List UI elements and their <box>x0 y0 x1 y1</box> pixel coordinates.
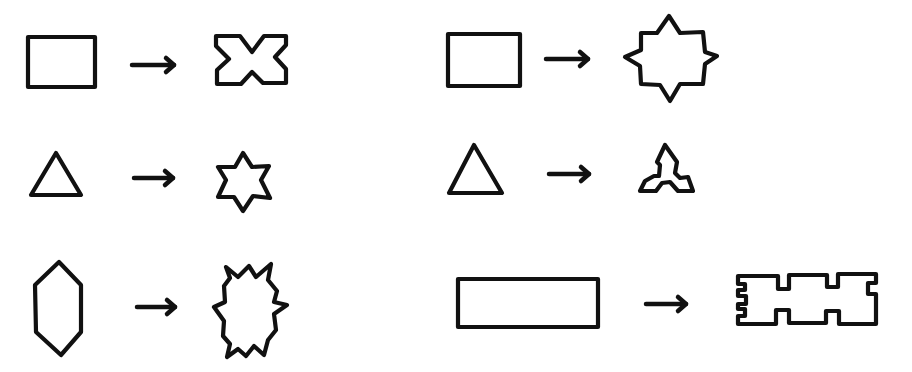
transformation-pair-triangle-to-trefoil <box>449 145 693 193</box>
target-shape-cross-notched-rectangle <box>216 36 286 84</box>
arrow-right-icon <box>646 297 686 311</box>
source-shape-elongated-hexagon <box>35 262 81 355</box>
target-shape-eight-point-star <box>625 16 717 101</box>
arrow-right-icon <box>546 52 588 66</box>
target-shape-castellated-rectangle <box>738 274 876 324</box>
transformation-pair-triangle-to-six-point-star <box>31 153 270 211</box>
shape-transformations-diagram <box>0 0 912 372</box>
arrow-right-icon <box>549 167 589 181</box>
source-shape-triangle <box>31 153 81 195</box>
transformation-pair-rect-to-cross <box>28 36 286 87</box>
transformation-pair-rect-to-eight-point-star <box>448 16 717 101</box>
transformation-pair-hexagon-to-spiky-oval <box>35 262 287 357</box>
source-shape-rectangle <box>448 34 520 86</box>
source-shape-long-rectangle <box>458 279 598 327</box>
source-shape-triangle <box>449 145 502 193</box>
transformation-pair-long-rect-to-castellated <box>458 274 876 327</box>
source-shape-rectangle <box>28 37 95 87</box>
diagram-canvas <box>0 0 912 372</box>
target-shape-spiky-oval <box>214 264 287 357</box>
arrow-right-icon <box>137 300 175 314</box>
arrow-right-icon <box>134 171 173 185</box>
arrow-right-icon <box>132 58 174 72</box>
target-shape-six-point-star <box>218 153 270 211</box>
target-shape-notched-triangle <box>640 145 693 191</box>
